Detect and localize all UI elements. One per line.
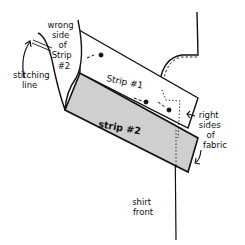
shirt-front-label: shirt front (132, 197, 154, 217)
diagram-svg: wrong side of Strip #2 stitching line St… (0, 0, 245, 245)
right-sides-label: right sides of fabric (199, 110, 228, 150)
stitching-line-label: stitching line (13, 70, 52, 90)
sewing-diagram: wrong side of Strip #2 stitching line St… (0, 0, 245, 245)
shirt-neckline (160, 12, 198, 84)
